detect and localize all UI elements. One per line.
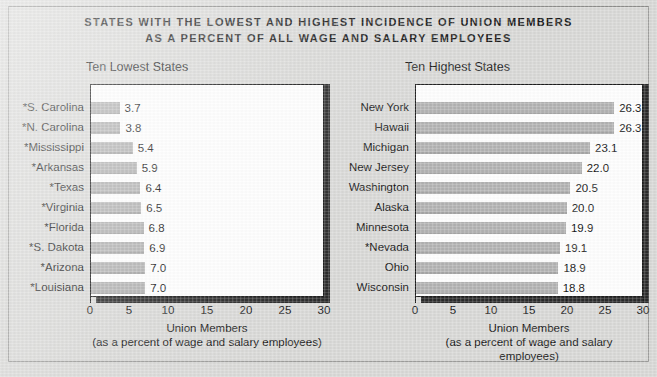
category-label: *S. Carolina [14, 97, 90, 117]
x-axis-tick-label: 5 [126, 304, 132, 316]
bar [416, 102, 614, 114]
bar-value-label: 18.9 [558, 258, 585, 278]
plot-wrap-left: 3.73.85.45.96.46.56.86.97.07.0 [90, 84, 324, 297]
bar-value-label: 18.8 [558, 278, 585, 298]
x-axis-tick-label: 10 [162, 304, 175, 316]
bar-row: 18.9 [416, 258, 642, 278]
panel-ten-lowest-states: Ten Lowest States *S. Carolina*N. Caroli… [14, 60, 324, 349]
bar [416, 222, 566, 234]
figure-title-line1: STATES WITH THE LOWEST AND HIGHEST INCID… [84, 16, 573, 28]
plot-wrap-right: 26.326.323.122.020.520.019.919.118.918.8 [415, 84, 643, 297]
bar-value-label: 7.0 [145, 278, 166, 298]
chart-figure: STATES WITH THE LOWEST AND HIGHEST INCID… [0, 0, 657, 377]
plot-area-right: 26.326.323.122.020.520.019.919.118.918.8 [415, 84, 643, 297]
bar [416, 282, 558, 294]
category-label: *Florida [14, 217, 90, 237]
bar-row: 3.7 [91, 98, 323, 118]
bar-row: 7.0 [91, 278, 323, 298]
bar-row: 19.1 [416, 238, 642, 258]
bar-row: 26.3 [416, 118, 642, 138]
category-label: *Arizona [14, 257, 90, 277]
bar-value-label: 6.9 [144, 238, 165, 258]
bar-value-label: 3.7 [120, 98, 141, 118]
bar-row: 5.9 [91, 158, 323, 178]
category-label: *Arkansas [14, 157, 90, 177]
x-axis-ticks-left [90, 297, 324, 304]
bar-value-label: 6.4 [140, 178, 161, 198]
x-axis-tick-label: 0 [412, 304, 418, 316]
bar-value-label: 7.0 [145, 258, 166, 278]
bar-row: 5.4 [91, 138, 323, 158]
bar-row: 6.4 [91, 178, 323, 198]
bar [91, 222, 144, 234]
bar [91, 142, 133, 154]
category-label: *Virginia [14, 197, 90, 217]
x-axis-caption-right-line1: Union Members [488, 322, 569, 334]
bar [416, 162, 582, 174]
x-axis-tick-label: 20 [561, 304, 574, 316]
bar [91, 202, 141, 214]
x-axis-tick-label: 30 [318, 304, 331, 316]
figure-title: STATES WITH THE LOWEST AND HIGHEST INCID… [0, 14, 657, 46]
x-axis-tick-label: 15 [201, 304, 214, 316]
panel-right-subtitle: Ten Highest States [337, 60, 643, 74]
bar-value-label: 26.3 [614, 118, 641, 138]
x-axis-tick [643, 297, 644, 303]
category-label: Michigan [337, 137, 415, 157]
x-axis-tick-label: 25 [599, 304, 612, 316]
bar [416, 182, 570, 194]
category-labels-left: *S. Carolina*N. Carolina*Mississippi*Ark… [14, 84, 90, 297]
x-axis-tick [324, 297, 325, 303]
x-axis-tick-label: 0 [87, 304, 93, 316]
bar-row: 23.1 [416, 138, 642, 158]
bar [416, 122, 614, 134]
bar-row: 18.8 [416, 278, 642, 298]
bar-value-label: 6.5 [141, 198, 162, 218]
plot-area-left: 3.73.85.45.96.46.56.86.97.07.0 [90, 84, 324, 297]
bar-value-label: 22.0 [582, 158, 609, 178]
bar-row: 22.0 [416, 158, 642, 178]
bar-row: 3.8 [91, 118, 323, 138]
panel-ten-highest-states: Ten Highest States New YorkHawaiiMichiga… [337, 60, 643, 363]
bar [416, 242, 560, 254]
bar-value-label: 26.3 [614, 98, 641, 118]
x-axis-tick-label: 5 [450, 304, 456, 316]
bar-value-label: 5.4 [133, 138, 154, 158]
bar-row: 6.8 [91, 218, 323, 238]
bar [91, 102, 120, 114]
x-axis-caption-right: Union Members (as a percent of wage and … [415, 321, 643, 363]
category-label: Alaska [337, 197, 415, 217]
bar [91, 262, 145, 274]
category-label: *Mississippi [14, 137, 90, 157]
x-axis-tick-label: 10 [485, 304, 498, 316]
bar-value-label: 20.5 [570, 178, 597, 198]
bar [416, 142, 590, 154]
category-label: New York [337, 97, 415, 117]
x-axis-ticks-right [415, 297, 643, 304]
x-axis-caption-left-line1: Union Members [166, 322, 247, 334]
category-label: *Nevada [337, 237, 415, 257]
panel-left-subtitle: Ten Lowest States [14, 60, 324, 74]
figure-title-line2: AS A PERCENT OF ALL WAGE AND SALARY EMPL… [0, 30, 657, 46]
axis-block-left: 051015202530 Union Members (as a percent… [90, 297, 324, 349]
bar-row: 7.0 [91, 258, 323, 278]
x-axis-tick-labels-right: 051015202530 [415, 304, 643, 319]
axis-block-right: 051015202530 Union Members (as a percent… [415, 297, 643, 363]
plot-block-left: *S. Carolina*N. Carolina*Mississippi*Ark… [14, 84, 324, 297]
category-label: *N. Carolina [14, 117, 90, 137]
x-axis-tick-label: 30 [637, 304, 650, 316]
x-axis-tick-label: 25 [279, 304, 292, 316]
bar-row: 6.5 [91, 198, 323, 218]
bar-row: 20.0 [416, 198, 642, 218]
bar-row: 26.3 [416, 98, 642, 118]
plot-block-right: New YorkHawaiiMichiganNew JerseyWashingt… [337, 84, 643, 297]
category-label: *Louisiana [14, 277, 90, 297]
bar-value-label: 19.1 [560, 238, 587, 258]
category-label: Wisconsin [337, 277, 415, 297]
bar-value-label: 19.9 [566, 218, 593, 238]
bar [91, 162, 137, 174]
bar [91, 242, 144, 254]
bar [416, 262, 558, 274]
category-label: Ohio [337, 257, 415, 277]
bar-row: 6.9 [91, 238, 323, 258]
